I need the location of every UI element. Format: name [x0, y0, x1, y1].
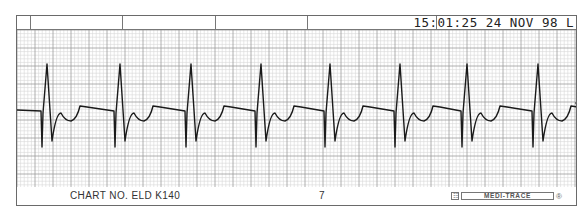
- registered-mark-icon: ®: [556, 192, 562, 201]
- chart-number: CHART NO. ELD K140: [70, 190, 180, 201]
- page-number: 7: [319, 190, 325, 201]
- header-cell: [31, 16, 123, 29]
- brand-name: MEDI-TRACE: [461, 192, 554, 200]
- header-cell: [17, 16, 31, 29]
- header-cell: [216, 16, 308, 29]
- brand-logo: ☷ MEDI-TRACE ®: [451, 191, 562, 201]
- time-text: 15:01:25: [413, 15, 477, 30]
- ecg-grid: [17, 30, 576, 187]
- date-text: 24 NOV 98: [486, 15, 558, 30]
- brand-icon: ☷: [451, 192, 459, 200]
- ecg-strip: 15:01:25 24 NOV 98 L CHART NO. ELD K140 …: [16, 15, 577, 206]
- timestamp-label: 15:01:25 24 NOV 98 L: [413, 16, 574, 30]
- strip-footer: CHART NO. ELD K140 7 ☷ MEDI-TRACE ®: [17, 187, 576, 206]
- lead-marker: L: [566, 15, 574, 30]
- header-cell: [123, 16, 216, 29]
- strip-header: 15:01:25 24 NOV 98 L: [17, 16, 576, 30]
